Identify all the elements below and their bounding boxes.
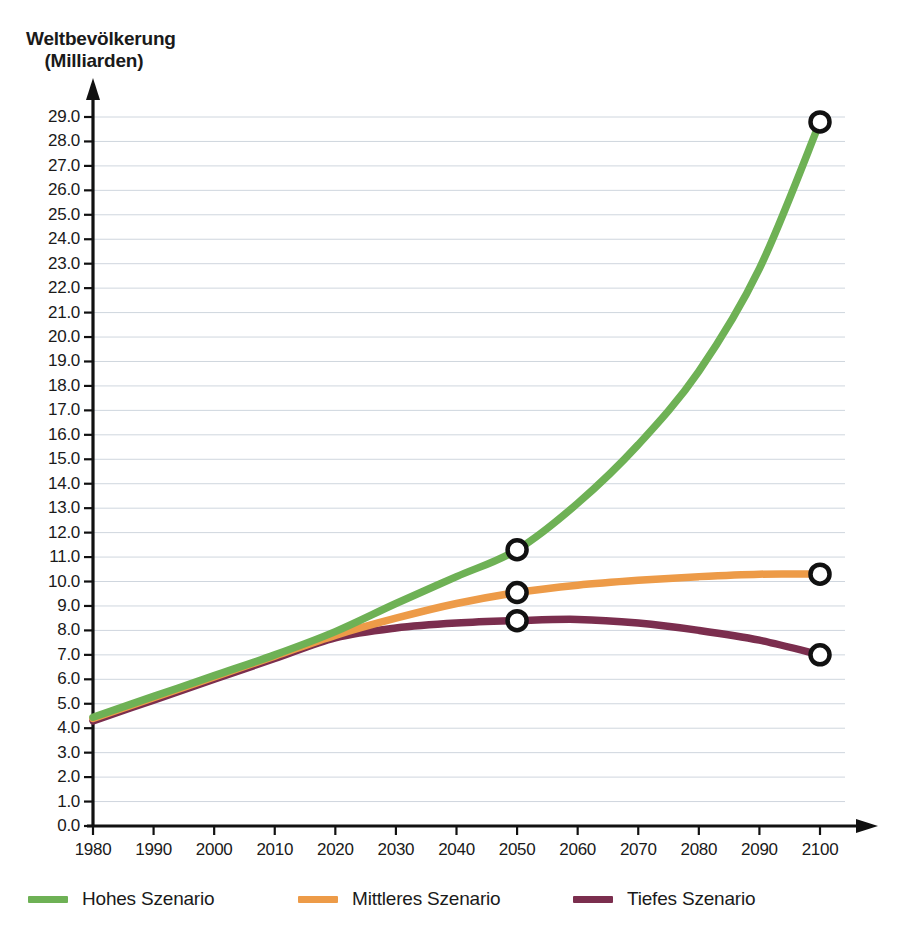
axes (84, 78, 878, 835)
y-tick-label: 26.0 (22, 180, 80, 200)
y-tick-label: 14.0 (22, 474, 80, 494)
series-line (93, 619, 820, 721)
y-tick-label: 8.0 (22, 620, 80, 640)
legend-color-swatch (298, 896, 338, 903)
legend-label: Hohes Szenario (82, 888, 214, 910)
y-tick-label: 18.0 (22, 376, 80, 396)
series-lines (93, 122, 820, 721)
y-tick-label: 19.0 (22, 351, 80, 371)
y-tick-label: 16.0 (22, 425, 80, 445)
data-point-marker (508, 583, 527, 602)
y-tick-label: 7.0 (22, 645, 80, 665)
x-tick-label: 2100 (785, 840, 855, 860)
x-tick-label: 2000 (179, 840, 249, 860)
y-tick-label: 28.0 (22, 131, 80, 151)
x-tick-label: 2030 (361, 840, 431, 860)
y-tick-label: 10.0 (22, 572, 80, 592)
data-point-marker (811, 565, 830, 584)
y-axis-arrow (86, 78, 100, 100)
series-line (93, 122, 820, 717)
chart-legend: Hohes SzenarioMittleres SzenarioTiefes S… (28, 888, 878, 910)
y-tick-label: 25.0 (22, 205, 80, 225)
legend-item: Hohes Szenario (28, 888, 298, 910)
x-tick-label: 2020 (300, 840, 370, 860)
series-line (93, 574, 820, 718)
y-tick-label: 2.0 (22, 767, 80, 787)
y-tick-label: 23.0 (22, 254, 80, 274)
data-point-marker (508, 540, 527, 559)
legend-label: Tiefes Szenario (627, 888, 755, 910)
y-tick-label: 21.0 (22, 303, 80, 323)
x-tick-label: 1980 (58, 840, 128, 860)
line-chart-plot (0, 0, 906, 950)
legend-color-swatch (573, 896, 613, 903)
legend-label: Mittleres Szenario (352, 888, 500, 910)
data-point-marker (811, 112, 830, 131)
y-tick-label: 13.0 (22, 498, 80, 518)
y-tick-label: 24.0 (22, 229, 80, 249)
gridlines (93, 117, 845, 802)
legend-item: Mittleres Szenario (298, 888, 573, 910)
y-tick-label: 12.0 (22, 523, 80, 543)
legend-color-swatch (28, 896, 68, 903)
y-tick-label: 17.0 (22, 400, 80, 420)
x-tick-label: 2080 (664, 840, 734, 860)
chart-figure: Weltbevölkerung (Milliarden) 0.01.02.03.… (0, 0, 906, 950)
x-tick-label: 2060 (543, 840, 613, 860)
x-tick-label: 2040 (422, 840, 492, 860)
y-tick-label: 15.0 (22, 449, 80, 469)
y-tick-label: 29.0 (22, 107, 80, 127)
y-tick-label: 6.0 (22, 669, 80, 689)
x-tick-label: 1990 (119, 840, 189, 860)
x-tick-label: 2050 (482, 840, 552, 860)
legend-item: Tiefes Szenario (573, 888, 755, 910)
x-tick-label: 2090 (724, 840, 794, 860)
y-tick-label: 1.0 (22, 792, 80, 812)
y-tick-label: 22.0 (22, 278, 80, 298)
y-tick-label: 11.0 (22, 547, 80, 567)
y-tick-label: 27.0 (22, 156, 80, 176)
y-tick-label: 20.0 (22, 327, 80, 347)
x-tick-label: 2070 (603, 840, 673, 860)
y-tick-label: 0.0 (22, 816, 80, 836)
y-tick-label: 9.0 (22, 596, 80, 616)
y-tick-label: 4.0 (22, 718, 80, 738)
data-point-marker (508, 611, 527, 630)
data-point-marker (811, 645, 830, 664)
x-axis-arrow (856, 819, 878, 833)
x-tick-label: 2010 (240, 840, 310, 860)
y-tick-label: 5.0 (22, 694, 80, 714)
y-tick-label: 3.0 (22, 743, 80, 763)
